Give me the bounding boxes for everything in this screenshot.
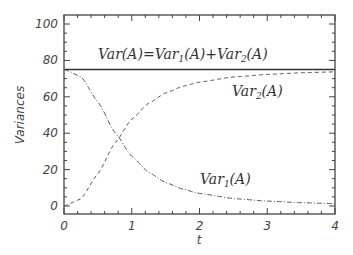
y-tick-label: 80 [43,53,59,67]
y-tick-label: 0 [50,199,58,213]
chart: 020406080100 01234 t Variances Var(A)=Va… [0,0,353,255]
y-axis-label: Variances [13,86,27,144]
annotation-var1: Var1(A) [200,171,251,189]
y-tick-labels: 020406080100 [35,17,58,213]
y-tick-label: 40 [43,126,59,140]
annotation-var2: Var2(A) [232,83,283,101]
y-tick-label: 60 [43,90,59,104]
x-tick-label: 0 [60,219,68,233]
x-tick-label: 2 [196,219,204,233]
y-tick-label: 100 [35,17,58,31]
x-tick-label: 3 [263,219,271,233]
x-tick-label: 1 [128,219,136,233]
y-tick-label: 20 [43,163,59,177]
x-tick-labels: 01234 [60,219,339,233]
annotation-total-variance: Var(A)=Var1(A)+Var2(A) [98,46,268,64]
x-axis-label: t [197,233,203,247]
x-tick-label: 4 [331,219,339,233]
